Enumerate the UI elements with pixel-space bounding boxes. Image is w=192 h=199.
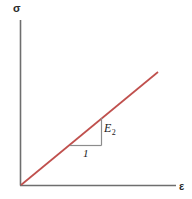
modulus-label: E2 bbox=[104, 122, 115, 134]
stress-strain-line bbox=[21, 72, 158, 185]
stress-strain-diagram: σ ε E2 1 bbox=[0, 0, 192, 199]
modulus-symbol: E bbox=[104, 121, 111, 135]
modulus-subscript: 2 bbox=[112, 128, 116, 137]
y-axis-label: σ bbox=[13, 3, 21, 14]
x-axis-label: ε bbox=[179, 181, 184, 192]
plot-canvas bbox=[0, 0, 192, 199]
run-label: 1 bbox=[83, 148, 89, 159]
